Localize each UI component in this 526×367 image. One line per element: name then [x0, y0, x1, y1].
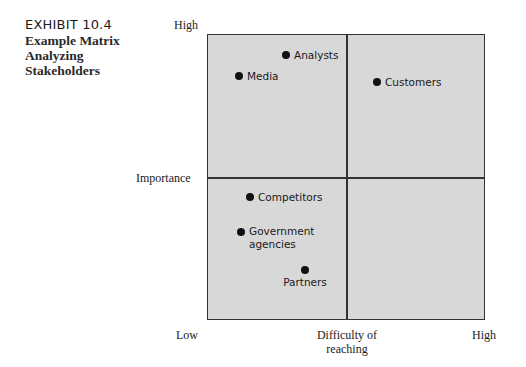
point-label: Analysts — [294, 49, 338, 61]
dot-icon — [235, 72, 243, 80]
point-competitors: Competitors — [246, 191, 322, 204]
point-label-line1: Government — [237, 225, 314, 238]
exhibit-title: Example Matrix Analyzing Stakeholders — [25, 33, 135, 78]
point-media: Media — [235, 70, 279, 83]
dot-icon — [282, 51, 290, 59]
horizontal-divider — [208, 177, 484, 179]
x-axis-low-label: Low — [176, 328, 198, 342]
point-customers: Customers — [373, 76, 441, 89]
dot-icon — [373, 78, 381, 86]
point-analysts: Analysts — [282, 49, 338, 62]
point-label: Competitors — [258, 191, 322, 203]
y-axis-label: Importance — [136, 171, 191, 185]
exhibit-title-block: EXHIBIT 10.4 Example Matrix Analyzing St… — [25, 17, 135, 78]
point-partners: Partners — [282, 266, 328, 289]
dot-icon — [301, 266, 309, 274]
y-axis-high-label: High — [174, 18, 198, 32]
x-axis-high-label: High — [472, 328, 496, 342]
dot-icon — [246, 193, 254, 201]
exhibit-number: EXHIBIT 10.4 — [25, 17, 135, 33]
point-government-agencies: Government agencies — [237, 225, 314, 251]
point-label: Customers — [385, 76, 441, 88]
stakeholder-matrix: Analysts Media Customers Competitors Gov… — [207, 34, 485, 320]
dot-icon — [237, 228, 245, 236]
x-axis-label: Difficulty of reaching — [316, 328, 378, 356]
point-label: Media — [247, 70, 279, 82]
point-label: Partners — [283, 276, 327, 288]
point-label-line2: agencies — [237, 238, 314, 251]
